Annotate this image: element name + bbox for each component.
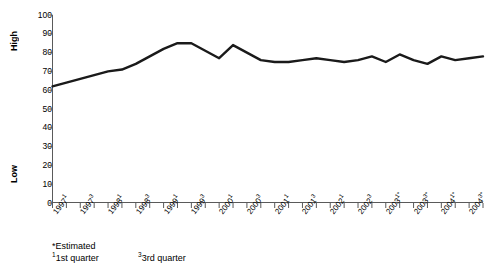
x-tick-label-year: 2004 — [440, 196, 458, 216]
x-tick-label: 20003 — [246, 194, 265, 216]
x-tick-label-year: 1998 — [134, 196, 152, 216]
x-tick-label-year: 2002 — [328, 196, 346, 216]
x-tick-label-year: 1999 — [190, 196, 208, 216]
x-tick-label-year: 2002 — [356, 196, 374, 216]
footnote-estimated-text: *Estimated — [52, 241, 96, 251]
footnotes: *Estimated 11st quarter33rd quarter — [52, 240, 186, 264]
x-tick-label-year: 2001 — [273, 196, 291, 216]
footnote-q3: 33rd quarter — [138, 253, 186, 263]
x-tick-label: 20013 — [301, 194, 320, 216]
x-tick-label-year: 1997 — [51, 196, 69, 216]
x-tick-label: 20001 — [218, 194, 237, 216]
x-tick-label: 20021 — [329, 194, 348, 216]
x-tick-label-year: 2003 — [384, 196, 402, 216]
footnote-quarters: 11st quarter33rd quarter — [52, 252, 186, 264]
footnote-q3-text: 3rd quarter — [142, 253, 186, 263]
x-tick-label: 20031* — [385, 193, 406, 216]
x-tick-label: 19983 — [135, 194, 154, 216]
footnote-q1: 11st quarter — [52, 252, 138, 264]
footnote-q1-text: 1st quarter — [56, 253, 99, 263]
x-tick-label-year: 2000 — [217, 196, 235, 216]
x-tick-label: 20041* — [440, 193, 461, 216]
x-tick-label: 20023 — [357, 194, 376, 216]
x-tick-label-year: 2000 — [245, 196, 263, 216]
x-tick-label: 19971 — [52, 194, 71, 216]
x-tick-label: 19981 — [107, 194, 126, 216]
x-tick-label-year: 1998 — [106, 196, 124, 216]
x-tick-label: 19973 — [79, 194, 98, 216]
x-tick-label: 20033* — [413, 193, 434, 216]
x-tick-label: 19993 — [190, 194, 209, 216]
x-axis-tick-labels: 1997119973199811998319991199932000120003… — [0, 0, 490, 277]
line-chart: High Low 0102030405060708090100 19971199… — [0, 0, 490, 277]
x-tick-label-year: 2001 — [301, 196, 319, 216]
x-tick-label-year: 2003 — [412, 196, 430, 216]
x-tick-label: 20043* — [468, 193, 489, 216]
x-tick-label-year: 1997 — [78, 196, 96, 216]
x-tick-label-year: 2004 — [467, 196, 485, 216]
x-tick-label: 20011 — [274, 194, 293, 216]
footnote-estimated: *Estimated — [52, 240, 186, 252]
x-tick-label-year: 1999 — [162, 196, 180, 216]
x-tick-label: 19991 — [163, 194, 182, 216]
